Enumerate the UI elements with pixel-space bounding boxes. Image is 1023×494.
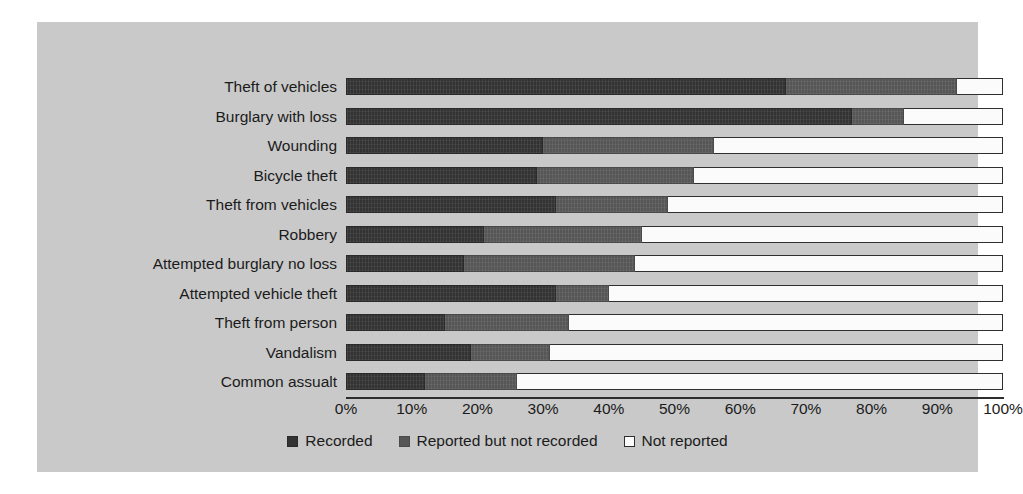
bar-segment-reported-but-not-recorded bbox=[556, 196, 668, 213]
bar-segment-not-reported bbox=[642, 226, 1003, 243]
legend-label: Reported but not recorded bbox=[417, 432, 598, 450]
stacked-bar bbox=[346, 285, 1003, 302]
category-label: Robbery bbox=[278, 220, 337, 250]
bar-row: Theft of vehicles bbox=[346, 72, 1003, 102]
bar-segment-not-reported bbox=[904, 108, 1003, 125]
bar-segment-reported-but-not-recorded bbox=[471, 344, 550, 361]
bar-segment-not-reported bbox=[694, 167, 1003, 184]
bar-row: Theft from vehicles bbox=[346, 190, 1003, 220]
x-tick-label: 30% bbox=[528, 400, 559, 418]
category-label: Burglary with loss bbox=[216, 102, 337, 132]
bar-row: Common assualt bbox=[346, 367, 1003, 397]
bar-segment-not-reported bbox=[668, 196, 1003, 213]
category-label: Theft from person bbox=[215, 308, 337, 338]
x-tick-label: 100% bbox=[983, 400, 1023, 418]
bar-row: Bicycle theft bbox=[346, 161, 1003, 191]
bar-row: Vandalism bbox=[346, 338, 1003, 368]
bar-segment-recorded bbox=[346, 78, 786, 95]
bar-segment-not-reported bbox=[957, 78, 1003, 95]
bar-row: Wounding bbox=[346, 131, 1003, 161]
stacked-bar bbox=[346, 255, 1003, 272]
stacked-bar bbox=[346, 373, 1003, 390]
bar-segment-reported-but-not-recorded bbox=[537, 167, 695, 184]
category-label: Vandalism bbox=[266, 338, 337, 368]
legend-swatch-icon bbox=[624, 436, 635, 447]
chart-panel: Theft of vehiclesBurglary with lossWound… bbox=[37, 22, 978, 472]
stacked-bar bbox=[346, 196, 1003, 213]
category-label: Attempted burglary no loss bbox=[153, 249, 337, 279]
bar-segment-reported-but-not-recorded bbox=[556, 285, 609, 302]
bar-segment-recorded bbox=[346, 373, 425, 390]
bar-segment-not-reported bbox=[714, 137, 1003, 154]
category-label: Bicycle theft bbox=[253, 161, 337, 191]
bar-segment-reported-but-not-recorded bbox=[464, 255, 635, 272]
category-label: Theft of vehicles bbox=[224, 72, 337, 102]
bar-row: Robbery bbox=[346, 220, 1003, 250]
bar-segment-recorded bbox=[346, 137, 543, 154]
stacked-bar bbox=[346, 226, 1003, 243]
x-tick-label: 40% bbox=[593, 400, 624, 418]
stacked-bar bbox=[346, 167, 1003, 184]
bar-row: Attempted burglary no loss bbox=[346, 249, 1003, 279]
x-tick-label: 60% bbox=[725, 400, 756, 418]
x-tick-label: 0% bbox=[335, 400, 357, 418]
stacked-bar bbox=[346, 344, 1003, 361]
category-label: Attempted vehicle theft bbox=[179, 279, 337, 309]
bar-segment-not-reported bbox=[609, 285, 1003, 302]
x-tick-label: 50% bbox=[659, 400, 690, 418]
bar-segment-reported-but-not-recorded bbox=[786, 78, 957, 95]
category-label: Common assualt bbox=[221, 367, 337, 397]
bar-segment-reported-but-not-recorded bbox=[445, 314, 570, 331]
plot-area: Theft of vehiclesBurglary with lossWound… bbox=[346, 72, 1003, 397]
bar-segment-recorded bbox=[346, 167, 537, 184]
x-tick-label: 70% bbox=[790, 400, 821, 418]
category-label: Wounding bbox=[267, 131, 337, 161]
legend-label: Not reported bbox=[642, 432, 728, 450]
stacked-bar bbox=[346, 137, 1003, 154]
legend: RecordedReported but not recordedNot rep… bbox=[37, 432, 978, 450]
legend-swatch-icon bbox=[287, 436, 298, 447]
x-tick-label: 80% bbox=[856, 400, 887, 418]
bar-segment-recorded bbox=[346, 344, 471, 361]
bar-segment-not-reported bbox=[569, 314, 1003, 331]
legend-swatch-icon bbox=[399, 436, 410, 447]
legend-item: Not reported bbox=[624, 432, 728, 450]
bar-segment-reported-but-not-recorded bbox=[543, 137, 714, 154]
bar-segment-recorded bbox=[346, 255, 464, 272]
x-axis-tick-labels: 0%10%20%30%40%50%60%70%80%90%100% bbox=[346, 400, 1003, 424]
x-tick-label: 10% bbox=[396, 400, 427, 418]
bar-row: Burglary with loss bbox=[346, 102, 1003, 132]
legend-item: Recorded bbox=[287, 432, 372, 450]
bar-segment-reported-but-not-recorded bbox=[852, 108, 905, 125]
legend-item: Reported but not recorded bbox=[399, 432, 598, 450]
stacked-bar bbox=[346, 108, 1003, 125]
stacked-bar bbox=[346, 314, 1003, 331]
bar-segment-recorded bbox=[346, 285, 556, 302]
bar-segment-not-reported bbox=[550, 344, 1003, 361]
bar-segment-reported-but-not-recorded bbox=[484, 226, 642, 243]
bar-segment-not-reported bbox=[517, 373, 1003, 390]
bar-row: Theft from person bbox=[346, 308, 1003, 338]
x-tick-label: 20% bbox=[462, 400, 493, 418]
bar-segment-recorded bbox=[346, 108, 852, 125]
bar-segment-recorded bbox=[346, 226, 484, 243]
bar-segment-recorded bbox=[346, 314, 445, 331]
category-label: Theft from vehicles bbox=[206, 190, 337, 220]
bar-segment-recorded bbox=[346, 196, 556, 213]
x-tick-label: 90% bbox=[922, 400, 953, 418]
stacked-bar bbox=[346, 78, 1003, 95]
bar-segment-reported-but-not-recorded bbox=[425, 373, 517, 390]
x-axis-line bbox=[346, 397, 1004, 399]
legend-label: Recorded bbox=[305, 432, 372, 450]
bar-segment-not-reported bbox=[635, 255, 1003, 272]
bar-row: Attempted vehicle theft bbox=[346, 279, 1003, 309]
